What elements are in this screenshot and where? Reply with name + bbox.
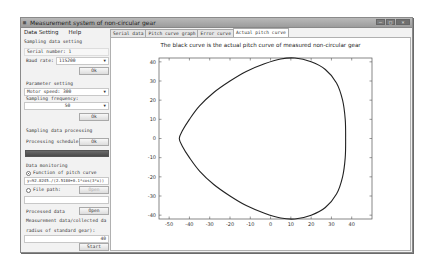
motor-speed-value: Motor speed: 300: [27, 89, 71, 94]
sampling-frequency-select[interactable]: 50 ▼: [24, 102, 109, 110]
title-bar[interactable]: ▦ Measurement system of non-circular gea…: [21, 18, 412, 28]
processed-open-button[interactable]: Open: [79, 207, 109, 215]
motor-speed-select[interactable]: Motor speed: 300 ▼: [24, 88, 109, 96]
plot-frame: [159, 58, 372, 219]
x-tick-label: 0: [269, 221, 272, 227]
tab-strip: Serial data Pitch curve graph Error curv…: [110, 29, 288, 37]
serial-number-label: Serial number:: [27, 49, 66, 54]
processing-ok-button[interactable]: Ok: [79, 138, 109, 146]
start-button[interactable]: Start: [79, 243, 109, 251]
chevron-down-icon: ▼: [104, 89, 106, 95]
x-tick-label: -30: [206, 221, 214, 227]
y-tick-label: 0: [153, 135, 156, 141]
radius-label: radius of standard gear):: [26, 228, 95, 234]
processing-section-label: Sampling data processing: [26, 128, 92, 134]
function-input[interactable]: y=92.8245./(2.5180+0.1*cos(3*x)): [24, 177, 109, 185]
minimize-button[interactable]: –: [376, 19, 385, 25]
baud-rate-label: Baud rate:: [26, 58, 54, 64]
y-tick-label: 10: [150, 116, 156, 122]
x-tick-label: -40: [185, 221, 193, 227]
x-tick-label: -20: [226, 221, 234, 227]
y-tick-label: -40: [148, 212, 156, 218]
processing-schedule-label: Processing schedule:: [26, 139, 81, 145]
menu-bar: Data Setting Help: [24, 28, 81, 37]
pitch-curve-chart: -50-40-30-20-10010203040-40-30-20-100102…: [111, 38, 410, 250]
tab-pitch-curve-graph[interactable]: Pitch curve graph: [145, 29, 198, 37]
window-title: Measurement system of non-circular gear: [30, 18, 156, 27]
x-tick-label: 10: [288, 221, 294, 227]
file-path-label: File path:: [33, 187, 61, 193]
app-window: ▦ Measurement system of non-circular gea…: [20, 17, 413, 253]
serial-number-value[interactable]: 1: [69, 49, 72, 54]
sampling-frequency-value: 50: [65, 103, 71, 108]
file-open-button[interactable]: Open: [79, 186, 109, 194]
y-tick-label: -20: [148, 174, 156, 180]
function-value: y=92.8245./(2.5180+0.1*cos(3*x)): [27, 178, 104, 183]
close-button[interactable]: ×: [396, 19, 410, 25]
y-tick-label: -10: [148, 154, 156, 160]
processing-progress-bar: [25, 150, 109, 157]
y-tick-label: -30: [148, 193, 156, 199]
function-radio-label: Function of pitch curve: [33, 170, 97, 176]
y-tick-label: 40: [150, 59, 156, 65]
serial-number-row: Serial number: 1: [24, 48, 109, 56]
sampling-section-label: Sampling data setting: [24, 39, 82, 45]
y-tick-label: 20: [150, 97, 156, 103]
menu-help[interactable]: Help: [69, 28, 82, 37]
parameter-section-label: Parameter setting: [26, 81, 73, 87]
menu-data-setting[interactable]: Data Setting: [24, 28, 59, 37]
chart-panel: The black curve is the actual pitch curv…: [110, 37, 411, 251]
app-icon: ▦: [23, 19, 29, 25]
maximize-button[interactable]: □: [386, 19, 395, 25]
left-control-panel: Sampling data setting Serial number: 1 B…: [23, 37, 110, 251]
file-path-radio[interactable]: [26, 188, 31, 193]
x-tick-label: -10: [246, 221, 254, 227]
x-tick-label: 30: [328, 221, 334, 227]
monitoring-section-label: Data monitoring: [26, 163, 68, 169]
x-tick-label: 40: [349, 221, 355, 227]
processed-data-label: Processed data: [26, 209, 65, 215]
x-tick-label: -50: [165, 221, 173, 227]
measurement-label: Measurement data/collected da: [26, 218, 106, 224]
tab-serial-data[interactable]: Serial data: [110, 29, 146, 37]
radius-input[interactable]: 40: [24, 235, 109, 243]
baud-rate-select[interactable]: 115200 ▼: [56, 57, 109, 65]
y-tick-label: 30: [150, 78, 156, 84]
baud-rate-value: 115200: [59, 58, 76, 63]
sampling-ok-button[interactable]: Ok: [79, 67, 109, 75]
function-radio[interactable]: [26, 171, 31, 176]
file-path-input[interactable]: [24, 196, 109, 204]
chevron-down-icon: ▼: [104, 58, 106, 64]
x-tick-label: 20: [308, 221, 314, 227]
radius-value: 40: [100, 236, 106, 241]
parameter-ok-button[interactable]: Ok: [79, 113, 109, 121]
chevron-down-icon: ▼: [104, 103, 106, 109]
tab-error-curve[interactable]: Error curve: [197, 29, 233, 37]
window-controls: – □ ×: [376, 19, 410, 26]
